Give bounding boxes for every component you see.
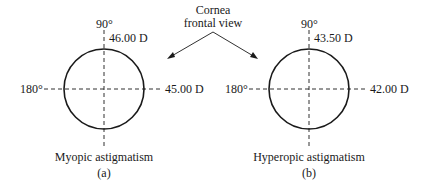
arrow-right-head: [250, 52, 258, 59]
caption-a: Myopic astigmatism: [44, 151, 164, 164]
panel-letter-b: (b): [289, 167, 329, 180]
top-angle-label-b: 90°: [301, 18, 318, 31]
panel-b-graphics: [249, 30, 367, 148]
callout-arrows: [167, 32, 258, 59]
vertical-power-label-b: 43.50 D: [314, 32, 353, 45]
panel-letter-a: (a): [84, 167, 124, 180]
top-angle-label-a: 90°: [96, 18, 113, 31]
callout-label-line2: frontal view: [173, 17, 253, 30]
arrow-right-shaft: [213, 32, 255, 57]
arrow-left-head: [167, 52, 175, 59]
left-angle-label-a: 180°: [20, 83, 43, 96]
caption-b: Hyperopic astigmatism: [244, 151, 374, 164]
vertical-power-label-a: 46.00 D: [109, 32, 148, 45]
horizontal-power-label-b: 42.00 D: [370, 83, 409, 96]
arrow-left-shaft: [170, 32, 213, 57]
left-angle-label-b: 180°: [225, 83, 248, 96]
horizontal-power-label-a: 45.00 D: [165, 83, 204, 96]
panel-a-graphics: [44, 30, 162, 148]
